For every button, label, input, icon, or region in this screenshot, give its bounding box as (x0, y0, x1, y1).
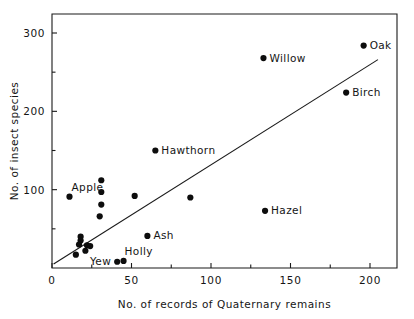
data-point (87, 243, 93, 249)
data-point-holly (120, 258, 126, 264)
data-point (82, 248, 88, 254)
x-tick-label: 200 (359, 274, 381, 286)
point-label-holly: Holly (125, 245, 153, 257)
x-tick-label: 0 (48, 274, 55, 286)
point-label-hawthorn: Hawthorn (161, 144, 215, 156)
point-label-willow: Willow (269, 52, 305, 64)
scatter-plot-figure: 050100150200100200300 OakWillowBirchHawt… (0, 0, 414, 319)
y-axis-title: No. of insect species (8, 82, 20, 201)
plot-canvas: 050100150200100200300 OakWillowBirchHawt… (0, 0, 414, 319)
data-point-yew (114, 259, 120, 265)
data-point (76, 241, 82, 247)
point-label-yew: Yew (89, 255, 111, 267)
y-tick-label: 200 (23, 105, 45, 117)
regression-line (54, 60, 378, 264)
point-labels: OakWillowBirchHawthornHazelAppleAshYewHo… (71, 39, 392, 267)
y-tick-label: 100 (23, 184, 45, 196)
point-label-oak: Oak (370, 39, 392, 51)
data-point (187, 194, 193, 200)
data-point (73, 252, 79, 258)
point-label-ash: Ash (153, 229, 174, 241)
data-point (97, 213, 103, 219)
fit-line (54, 60, 378, 264)
point-label-hazel: Hazel (271, 204, 302, 216)
data-point-willow (260, 55, 266, 61)
point-label-birch: Birch (352, 86, 381, 98)
data-point-hazel (262, 208, 268, 214)
data-point (98, 201, 104, 207)
point-label-apple: Apple (71, 181, 103, 193)
data-point (132, 193, 138, 199)
data-point-oak (361, 42, 367, 48)
data-point-hawthorn (152, 147, 158, 153)
tick-labels: 050100150200100200300 (23, 27, 381, 286)
data-point-birch (343, 89, 349, 95)
data-points (66, 42, 366, 264)
x-tick-label: 150 (280, 274, 302, 286)
x-tick-label: 100 (200, 274, 222, 286)
y-tick-label: 300 (23, 27, 45, 39)
axes-frame (52, 14, 397, 268)
x-tick-label: 50 (124, 274, 139, 286)
x-axis-title: No. of records of Quaternary remains (118, 298, 331, 310)
data-point-ash (144, 233, 150, 239)
data-point-apple (66, 194, 72, 200)
axes-frame-rect (52, 14, 397, 268)
